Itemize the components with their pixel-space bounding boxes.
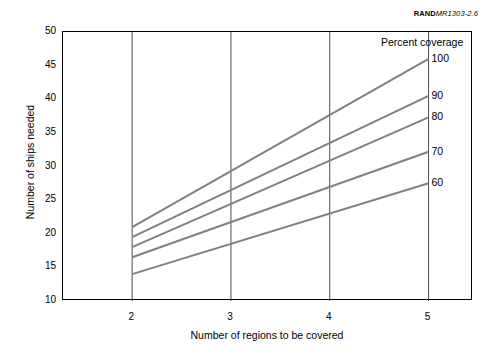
chart-figure: RANDMR1303-2.6 Number of ships needed Nu… [0, 0, 492, 355]
legend-title: Percent coverage [381, 36, 463, 48]
plot-svg [63, 32, 473, 301]
series-end-label-100: 100 [432, 53, 450, 64]
series-lines [132, 59, 428, 274]
x-tick-label-4: 4 [309, 312, 349, 322]
x-tick-label-5: 5 [408, 312, 448, 322]
series-end-label-90: 90 [432, 90, 444, 101]
series-end-label-70: 70 [432, 146, 444, 157]
series-end-label-80: 80 [432, 111, 444, 122]
x-tick-label-3: 3 [210, 312, 250, 322]
series-line-100 [132, 59, 428, 227]
x-tick-label-2: 2 [111, 312, 151, 322]
plot-area [62, 31, 472, 300]
series-end-label-60: 60 [432, 177, 444, 188]
